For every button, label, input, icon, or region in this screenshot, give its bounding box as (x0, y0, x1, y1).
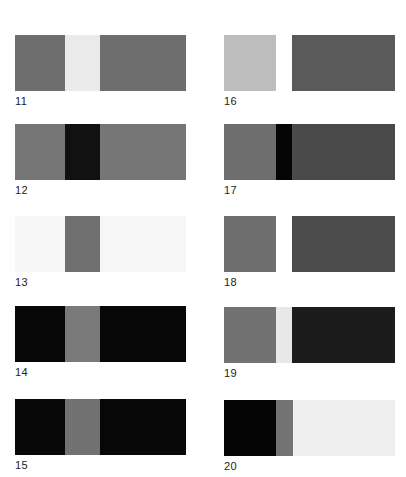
swatch-number-label: 14 (15, 366, 28, 378)
right-field (292, 307, 395, 363)
center-band (65, 35, 100, 91)
swatch-number-label: 13 (15, 276, 28, 288)
contrast-swatch-13 (15, 216, 186, 272)
swatch-number-label: 16 (224, 95, 237, 107)
swatch-number-label: 18 (224, 276, 237, 288)
contrast-swatch-14 (15, 306, 186, 362)
right-field (292, 216, 395, 272)
right-field (293, 400, 395, 456)
left-field (224, 307, 276, 363)
right-field (100, 35, 186, 91)
contrast-swatch-18 (224, 216, 395, 272)
swatch-number-label: 11 (15, 95, 27, 107)
right-field (100, 399, 186, 455)
swatch-number-label: 20 (224, 460, 237, 472)
left-field (15, 216, 65, 272)
swatch-number-label: 15 (15, 459, 28, 471)
center-band (65, 306, 100, 362)
center-band (276, 307, 292, 363)
right-field (292, 124, 395, 180)
left-field (15, 124, 65, 180)
contrast-swatch-17 (224, 124, 395, 180)
center-band (276, 400, 293, 456)
contrast-swatch-16 (224, 35, 395, 91)
left-field (15, 306, 65, 362)
left-field (224, 35, 276, 91)
contrast-swatch-15 (15, 399, 186, 455)
center-band (65, 216, 100, 272)
center-band (65, 124, 100, 180)
right-field (292, 35, 395, 91)
contrast-swatch-12 (15, 124, 186, 180)
swatch-number-label: 19 (224, 367, 237, 379)
left-field (224, 124, 276, 180)
left-field (15, 35, 65, 91)
left-field (224, 400, 276, 456)
left-field (224, 216, 276, 272)
contrast-swatch-11 (15, 35, 186, 91)
right-field (100, 124, 186, 180)
left-field (15, 399, 65, 455)
center-band (276, 35, 292, 91)
swatch-number-label: 17 (224, 184, 237, 196)
contrast-swatch-20 (224, 400, 395, 456)
contrast-swatch-19 (224, 307, 395, 363)
center-band (276, 216, 292, 272)
center-band (65, 399, 100, 455)
center-band (276, 124, 292, 180)
swatch-number-label: 12 (15, 184, 28, 196)
right-field (100, 216, 186, 272)
right-field (100, 306, 186, 362)
